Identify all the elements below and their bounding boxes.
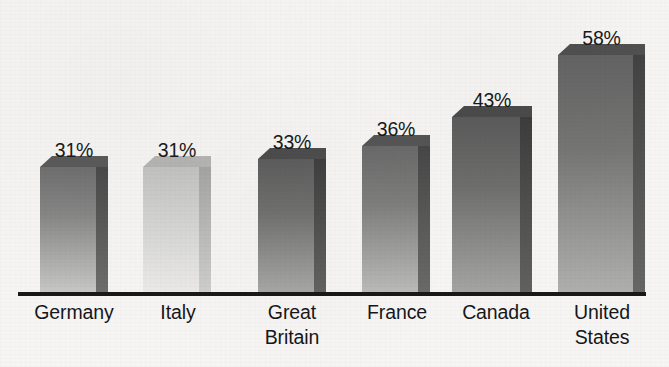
axis-label-line: Canada bbox=[448, 300, 544, 325]
axis-label-line: Britain bbox=[243, 325, 341, 350]
bar-side-face-canada bbox=[520, 117, 532, 294]
bar-group-germany: 31% bbox=[40, 167, 108, 294]
bar-front-face-france bbox=[362, 146, 418, 294]
x-axis-line bbox=[18, 292, 646, 296]
axis-label-line: Italy bbox=[133, 300, 223, 325]
value-label-italy: 31% bbox=[143, 139, 211, 162]
x-axis-labels: Germany Italy Great Britain France Canad… bbox=[0, 300, 669, 366]
bar-front-face-great-britain bbox=[258, 159, 314, 294]
value-label-canada: 43% bbox=[452, 89, 532, 112]
axis-label-line: Germany bbox=[18, 300, 130, 325]
bar-side-face-united-states bbox=[633, 55, 645, 294]
bar-group-italy: 31% bbox=[143, 167, 211, 294]
value-label-great-britain: 33% bbox=[258, 131, 326, 154]
axis-label-line: United bbox=[552, 300, 652, 325]
bar-group-united-states: 58% bbox=[558, 55, 645, 294]
bar-side-face-great-britain bbox=[314, 159, 326, 294]
bar-group-great-britain: 33% bbox=[258, 159, 326, 294]
bar-side-face-italy bbox=[199, 167, 211, 294]
bar-front-face-germany bbox=[40, 167, 96, 294]
value-label-germany: 31% bbox=[40, 139, 108, 162]
axis-label-line: States bbox=[552, 325, 652, 350]
axis-label-germany: Germany bbox=[18, 300, 130, 325]
bar-side-face-france bbox=[418, 146, 430, 294]
bar-chart: 31% 31% 33% 36% 43% bbox=[0, 0, 669, 367]
axis-label-canada: Canada bbox=[448, 300, 544, 325]
axis-label-line: France bbox=[350, 300, 444, 325]
value-label-united-states: 58% bbox=[558, 27, 645, 50]
axis-label-united-states: United States bbox=[552, 300, 652, 350]
bar-front-face-italy bbox=[143, 167, 199, 294]
bar-front-face-united-states bbox=[558, 55, 633, 294]
axis-label-great-britain: Great Britain bbox=[243, 300, 341, 350]
axis-label-line: Great bbox=[243, 300, 341, 325]
bar-group-france: 36% bbox=[362, 146, 430, 294]
axis-label-france: France bbox=[350, 300, 444, 325]
bar-group-canada: 43% bbox=[452, 117, 532, 294]
bar-side-face-germany bbox=[96, 167, 108, 294]
axis-label-italy: Italy bbox=[133, 300, 223, 325]
bar-front-face-canada bbox=[452, 117, 520, 294]
value-label-france: 36% bbox=[362, 118, 430, 141]
